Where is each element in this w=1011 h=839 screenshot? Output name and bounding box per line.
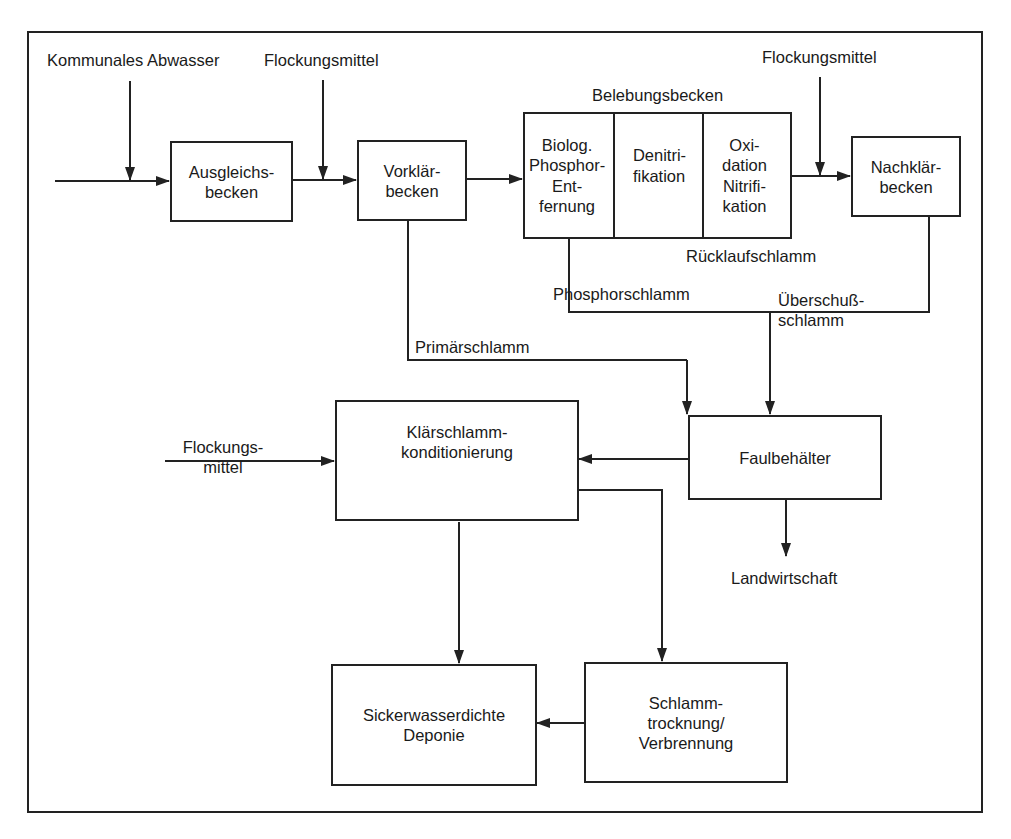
node-belebungsbecken[interactable]: Biolog. Phosphor- Ent- fernung Denitri- … — [523, 112, 792, 239]
belebung-cell-phosphor-label: Biolog. Phosphor- Ent- fernung — [529, 135, 605, 217]
process-flow-diagram: Kommunales Abwasser Flockungsmittel Floc… — [0, 0, 1011, 839]
node-vorklaerbecken[interactable]: Vorklär- becken — [357, 140, 467, 221]
node-nachklaerbecken[interactable]: Nachklär- becken — [851, 136, 961, 217]
input-flockungsmittel-2-label: Flockungsmittel — [762, 47, 877, 67]
node-klaerschlammkonditionierung-label: Klärschlamm- konditionierung — [401, 422, 513, 462]
belebung-cell-denitrifikation-label: Denitri- fikation — [633, 145, 686, 186]
flow-ueberschussschlamm-label: Überschuß- schlamm — [778, 290, 864, 330]
node-klaerschlammkonditionierung[interactable]: Klärschlamm- konditionierung — [335, 400, 579, 521]
node-schlammtrocknung-label: Schlamm- trocknung/ Verbrennung — [639, 693, 734, 753]
input-flockungsmittel-1-label: Flockungsmittel — [264, 50, 379, 70]
node-nachklaerbecken-label: Nachklär- becken — [871, 157, 942, 197]
node-deponie-label: Sickerwasserdichte Deponie — [363, 705, 505, 745]
node-belebungsbecken-title: Belebungsbecken — [592, 85, 723, 105]
node-ausgleichsbecken-label: Ausgleichs- becken — [189, 162, 274, 202]
flow-primaerschlamm-label: Primärschlamm — [415, 337, 530, 357]
node-vorklaerbecken-label: Vorklär- becken — [384, 161, 441, 201]
belebung-cell-nitrifikation[interactable]: Oxi- dation Nitrifi- kation — [702, 114, 790, 237]
node-faulbehaelter[interactable]: Faulbehälter — [688, 415, 882, 500]
belebung-cell-denitrifikation[interactable]: Denitri- fikation — [613, 114, 704, 237]
flow-ruecklaufschlamm-label: Rücklaufschlamm — [686, 246, 816, 266]
flow-phosphorschlamm-label: Phosphorschlamm — [553, 284, 690, 304]
belebung-cell-phosphor[interactable]: Biolog. Phosphor- Ent- fernung — [529, 114, 617, 237]
node-ausgleichsbecken[interactable]: Ausgleichs- becken — [170, 141, 293, 222]
node-deponie[interactable]: Sickerwasserdichte Deponie — [331, 664, 537, 786]
input-flockungsmittel-3-label: Flockungs- mittel — [178, 437, 268, 477]
node-schlammtrocknung[interactable]: Schlamm- trocknung/ Verbrennung — [584, 662, 788, 783]
belebung-cell-nitrifikation-label: Oxi- dation Nitrifi- kation — [722, 135, 767, 217]
output-landwirtschaft-label: Landwirtschaft — [731, 568, 837, 588]
input-kommunales-abwasser-label: Kommunales Abwasser — [47, 50, 219, 70]
node-faulbehaelter-label: Faulbehälter — [739, 448, 831, 468]
